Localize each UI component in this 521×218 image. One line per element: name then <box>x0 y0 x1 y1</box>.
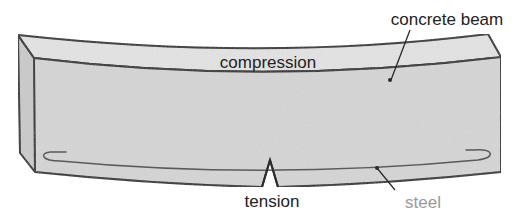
concrete-beam-leader-dot <box>388 78 392 82</box>
compression-label: compression <box>220 53 316 72</box>
tension-label: tension <box>245 192 300 211</box>
beam-diagram: compression concrete beam tension steel <box>0 0 521 218</box>
steel-label: steel <box>405 193 441 212</box>
concrete-beam-label: concrete beam <box>391 10 503 29</box>
steel-leader-dot <box>375 166 379 170</box>
